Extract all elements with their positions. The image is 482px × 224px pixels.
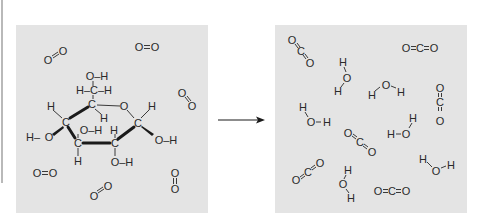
h2o-molecule: H O H xyxy=(339,164,355,204)
co2-molecule: O C O xyxy=(292,157,325,186)
hydrogen-atom: H xyxy=(334,85,342,97)
oxygen-atom: O xyxy=(171,167,180,179)
hydrogen-atom: H xyxy=(323,116,331,128)
co2-molecule: O C O xyxy=(288,34,315,69)
oxygen-atom: O xyxy=(90,190,99,202)
glucose-c5-h: H xyxy=(100,112,108,124)
oxygen-atom: O xyxy=(368,146,377,158)
oxygen-atom: O xyxy=(402,42,411,54)
h2o-molecule: H O H xyxy=(419,153,455,177)
reaction-arrow xyxy=(218,117,265,124)
oxygen-atom: O xyxy=(316,157,325,169)
hydrogen-atom: H xyxy=(409,112,417,124)
oxygen-atom: O xyxy=(430,42,439,54)
oxygen-atom: O xyxy=(44,54,53,66)
glucose-c1: C xyxy=(134,117,142,129)
bond xyxy=(118,127,134,139)
glucose-c2-oh: O–H xyxy=(111,156,134,168)
wedge-bond xyxy=(141,126,154,136)
glucose-c4-o: O xyxy=(45,131,54,143)
glucose-c3-h: H xyxy=(74,155,82,167)
hydrogen-atom: H xyxy=(419,153,427,165)
carbon-atom: C xyxy=(297,45,305,57)
glucose-c1-h: H xyxy=(148,100,156,112)
oxygen-atom: O xyxy=(432,165,441,177)
hydrogen-atom: H xyxy=(344,164,352,176)
hydrogen-atom: H xyxy=(347,192,355,204)
oxygen-atom: O xyxy=(436,82,445,94)
o2-molecule: O O xyxy=(178,87,197,112)
oxygen-molecules: O O O O O O O O O xyxy=(33,41,197,202)
bond xyxy=(391,86,396,88)
glucose-c2-h: H xyxy=(110,124,118,136)
hydrogen-atom: H xyxy=(397,86,405,98)
wedge-bond xyxy=(52,126,64,136)
carbon-atom: C xyxy=(356,136,364,148)
o2-molecule: O O xyxy=(44,45,68,66)
o2-molecule: O O xyxy=(135,41,160,53)
oxygen-atom: O xyxy=(402,185,411,197)
carbon-atom: C xyxy=(388,185,396,197)
co2-molecule: O C O xyxy=(436,82,445,127)
oxygen-atom: O xyxy=(33,167,42,179)
oxygen-atom: O xyxy=(188,100,197,112)
oxygen-atom: O xyxy=(382,79,391,91)
oxygen-atom: O xyxy=(374,185,383,197)
hydrogen-atom: H xyxy=(447,159,455,171)
glucose-c4-oh-h: H– xyxy=(26,131,41,143)
oxygen-atom: O xyxy=(339,178,348,190)
glucose-c3-oh: O–H xyxy=(80,124,103,136)
hydrogen-atom: H xyxy=(368,89,376,101)
bond xyxy=(70,107,88,118)
bond xyxy=(97,105,120,106)
hydrogen-atom: H xyxy=(387,128,395,140)
oxygen-atom: O xyxy=(151,41,160,53)
h2o-molecule: H O H xyxy=(387,112,417,140)
co2-molecule: O C O xyxy=(402,42,439,54)
bond xyxy=(441,166,446,168)
o2-molecule: O O xyxy=(171,167,180,195)
h2o-molecule: H O H xyxy=(334,56,352,97)
glucose-c4-h: H xyxy=(47,100,55,112)
h2o-molecule: H O H xyxy=(299,101,331,128)
oxygen-atom: O xyxy=(171,183,180,195)
glucose-c1-oh: O–H xyxy=(155,134,178,146)
carbon-atom: C xyxy=(436,96,444,108)
carbon-atom: C xyxy=(304,166,312,178)
glucose-c3: C xyxy=(74,137,82,149)
carbon-atom: C xyxy=(416,42,424,54)
oxygen-atom: O xyxy=(436,115,445,127)
oxygen-atom: O xyxy=(306,57,315,69)
o2-molecule: O O xyxy=(90,180,113,202)
reaction-diagram: O–H H–C–H C O H C H O H– C O–H H C H O–H xyxy=(0,0,482,224)
oxygen-atom: O xyxy=(49,167,58,179)
oxygen-atom: O xyxy=(344,127,353,139)
oxygen-atom: O xyxy=(307,116,316,128)
water-molecules: H O H H O H H O H H O H xyxy=(299,56,455,204)
hydrogen-atom: H xyxy=(299,101,307,113)
oxygen-atom: O xyxy=(292,174,301,186)
oxygen-atom: O xyxy=(59,45,68,57)
h2o-molecule: H O H xyxy=(368,79,405,101)
bond xyxy=(127,110,134,118)
co2-molecule: O C O xyxy=(374,185,411,197)
glucose-top-oh: O–H xyxy=(86,70,109,82)
glucose-c5: C xyxy=(88,98,96,110)
glucose-molecule: O–H H–C–H C O H C H O H– C O–H H C H O–H xyxy=(26,70,177,168)
co2-molecule: O C O xyxy=(344,127,377,158)
oxygen-atom: O xyxy=(343,72,352,84)
o2-molecule: O O xyxy=(33,167,58,179)
oxygen-atom: O xyxy=(104,180,113,192)
glucose-ch2: H–C–H xyxy=(76,84,112,96)
oxygen-atom: O xyxy=(135,41,144,53)
oxygen-atom: O xyxy=(402,128,411,140)
hydrogen-atom: H xyxy=(339,56,347,68)
